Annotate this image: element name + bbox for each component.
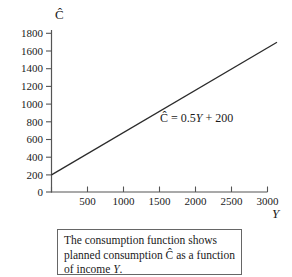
equation-intercept: 200 (215, 111, 233, 125)
caption-line-3-a: of income (64, 263, 113, 275)
caption-line-2-a: planned consumption (64, 249, 166, 261)
caption-text: The consumption function showsplanned co… (64, 233, 235, 275)
y-tick-label: 1800 (13, 28, 43, 39)
x-tick-label: 2500 (212, 196, 252, 207)
x-tick-label: 1000 (104, 196, 144, 207)
x-axis-title: Y (272, 207, 279, 220)
consumption-function-line (52, 42, 278, 175)
equation-slope: 0.5 (181, 111, 196, 125)
chart-svg (0, 0, 292, 225)
x-tick-label: 3000 (248, 196, 288, 207)
caption-line-1: The consumption function shows (64, 234, 217, 246)
y-tick-label: 1200 (13, 81, 43, 92)
caption-line-2-b: as a function (173, 249, 235, 261)
y-tick-label: 1000 (13, 99, 43, 110)
y-tick-label: 400 (13, 152, 43, 163)
x-tick-label: 1500 (140, 196, 180, 207)
consumption-function-figure: Ĉ Y 1800 1600 1400 1200 1000 800 600 400… (0, 0, 292, 277)
y-axis-ticks (46, 33, 52, 192)
y-tick-label: 1400 (13, 63, 43, 74)
y-tick-label: 800 (13, 117, 43, 128)
x-tick-label: 500 (68, 196, 108, 207)
x-axis-ticks (52, 187, 268, 193)
caption-line-3-b: . (120, 263, 123, 275)
y-tick-label: 200 (13, 170, 43, 181)
y-tick-label: 1600 (13, 46, 43, 57)
equation-lhs: Ĉ (160, 111, 168, 125)
y-axis-title: Ĉ (55, 8, 64, 21)
y-tick-label: 0 (13, 187, 43, 198)
equation-annotation: Ĉ = 0.5Y + 200 (160, 112, 233, 124)
chart-plot-area: Ĉ Y 1800 1600 1400 1200 1000 800 600 400… (0, 0, 292, 225)
caption-box: The consumption function showsplanned co… (57, 229, 242, 275)
equation-equals: = (168, 111, 181, 125)
y-tick-label: 600 (13, 134, 43, 145)
x-tick-label: 2000 (176, 196, 216, 207)
equation-plus: + (202, 111, 215, 125)
